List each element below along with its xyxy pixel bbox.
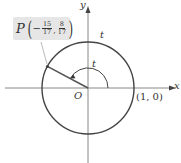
y-fraction: 8 17 [58, 21, 66, 36]
left-bracket: ( [27, 19, 32, 39]
x-sign: − [33, 23, 41, 34]
angle-label: t [92, 58, 96, 69]
angle-arc [70, 68, 108, 88]
origin-label: O [74, 90, 82, 101]
y-axis-label: y [80, 0, 86, 10]
point-p-dot [46, 65, 49, 68]
right-bracket: ) [69, 19, 74, 39]
point-name: P [16, 21, 25, 36]
comma: , [53, 26, 56, 35]
x-axis-label: x [174, 80, 180, 91]
x-fraction: 15 17 [42, 21, 52, 36]
point-label: P ( − 15 17 , 8 17 ) [14, 17, 70, 40]
y-denominator: 17 [58, 29, 66, 36]
radius-to-p [47, 66, 88, 88]
y-axis-arrow-icon [86, 6, 91, 13]
unit-point-label: (1, 0) [136, 91, 163, 102]
arc-length-label: t [100, 29, 104, 40]
label-leader [41, 42, 47, 64]
x-denominator: 17 [43, 29, 51, 36]
